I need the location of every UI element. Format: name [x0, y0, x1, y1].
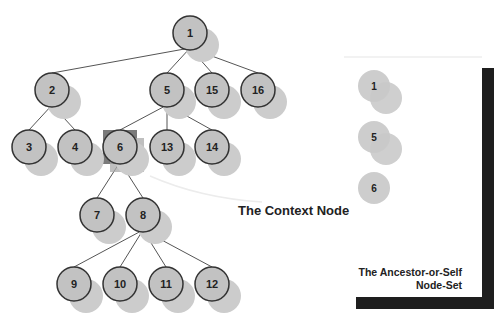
tree-node-1: 1 — [173, 16, 207, 50]
tree-node-9: 9 — [57, 267, 91, 301]
tree-node-8: 8 — [126, 198, 160, 232]
node-label: 15 — [206, 84, 218, 96]
node-label: 2 — [49, 84, 55, 96]
tree-node-6: 6 — [103, 130, 137, 164]
tree-node-2: 2 — [35, 73, 69, 107]
tree-node-13: 13 — [150, 130, 184, 164]
tree-node-16: 16 — [241, 73, 275, 107]
ancestor-label-line2: Node-Set — [359, 279, 462, 292]
node-label: 10 — [114, 278, 126, 290]
tree-node-14: 14 — [195, 130, 229, 164]
result-node-6: 6 — [358, 172, 390, 204]
bracket-vertical-bar — [482, 68, 494, 309]
result-node-1: 1 — [358, 70, 402, 114]
node-label: 8 — [140, 209, 146, 221]
result-node-label: 1 — [371, 81, 377, 92]
node-label: 1 — [187, 27, 193, 39]
tree-node-12: 12 — [195, 267, 229, 301]
node-label: 16 — [252, 84, 264, 96]
tree-node-11: 11 — [149, 267, 183, 301]
result-node-label: 5 — [371, 132, 377, 143]
node-label: 14 — [206, 141, 219, 153]
ancestor-or-self-node-set: 156 — [358, 70, 402, 204]
node-label: 6 — [117, 141, 123, 153]
bracket-bottom-bar — [356, 297, 494, 309]
node-label: 9 — [71, 278, 77, 290]
node-label: 3 — [26, 141, 32, 153]
tree-node-10: 10 — [103, 267, 137, 301]
tree-node-15: 15 — [195, 73, 229, 107]
node-label: 12 — [206, 278, 218, 290]
tree-edge — [120, 105, 167, 130]
tree-node-4: 4 — [58, 130, 92, 164]
context-node-label: The Context Node — [238, 203, 349, 218]
node-label: 5 — [164, 84, 170, 96]
axis-diagram: 12515163461314789101112 156 The Context … — [0, 0, 504, 319]
tree-edge — [52, 48, 190, 73]
tree-node-7: 7 — [80, 198, 114, 232]
result-node-5: 5 — [358, 121, 402, 165]
node-label: 7 — [94, 209, 100, 221]
node-label: 11 — [160, 278, 172, 290]
context-pointer-line — [150, 176, 262, 202]
result-node-label: 6 — [371, 183, 377, 194]
tree-node-3: 3 — [12, 130, 46, 164]
node-label: 13 — [161, 141, 173, 153]
tree-node-5: 5 — [150, 73, 184, 107]
ancestor-or-self-label: The Ancestor-or-Self Node-Set — [359, 266, 462, 292]
node-label: 4 — [72, 141, 79, 153]
ancestor-label-line1: The Ancestor-or-Self — [359, 266, 462, 279]
